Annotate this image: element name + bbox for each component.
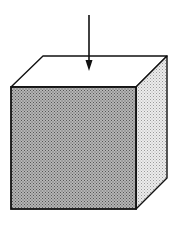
downward-arrow-icon [86,15,93,71]
cube-figure [0,0,182,225]
cube-diagram [0,0,182,225]
front-face [11,87,136,209]
